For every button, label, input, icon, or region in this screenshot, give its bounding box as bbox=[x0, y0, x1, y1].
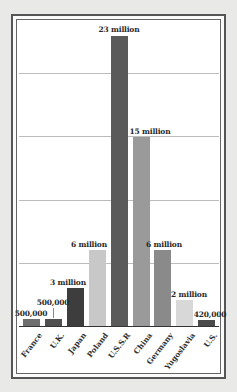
value-label-ussr: 23 million bbox=[99, 25, 140, 34]
category-label-france: France bbox=[19, 331, 44, 359]
value-label-poland: 6 million bbox=[71, 240, 107, 249]
x-axis-baseline bbox=[19, 326, 219, 327]
bar-chart: 500,000 500,000 3 million 6 million 23 m… bbox=[0, 0, 237, 392]
value-label-us: 420,000 bbox=[194, 310, 227, 319]
bar-uk bbox=[45, 319, 62, 326]
bar-japan bbox=[67, 288, 84, 326]
category-label-japan: Japan bbox=[66, 331, 88, 355]
value-label-uk: 500,000 bbox=[37, 298, 70, 307]
bar-china bbox=[133, 137, 150, 326]
bar-poland bbox=[89, 250, 106, 326]
category-label-ussr: U.S.S.R bbox=[106, 331, 132, 360]
bar-ussr bbox=[111, 36, 128, 326]
bar-yugoslavia bbox=[176, 300, 193, 326]
category-label-uk: U.K. bbox=[48, 331, 66, 350]
value-label-china: 15 million bbox=[130, 127, 171, 136]
category-label-us: U.S. bbox=[202, 331, 219, 349]
bar-france bbox=[23, 319, 40, 326]
value-label-france: 500,000 bbox=[15, 309, 48, 318]
bar-germany bbox=[154, 250, 171, 326]
value-label-yugoslavia: 2 million bbox=[171, 290, 207, 299]
value-label-japan: 3 million bbox=[50, 278, 86, 287]
value-label-germany: 6 million bbox=[146, 240, 182, 249]
value-label-leader-uk bbox=[53, 308, 54, 318]
